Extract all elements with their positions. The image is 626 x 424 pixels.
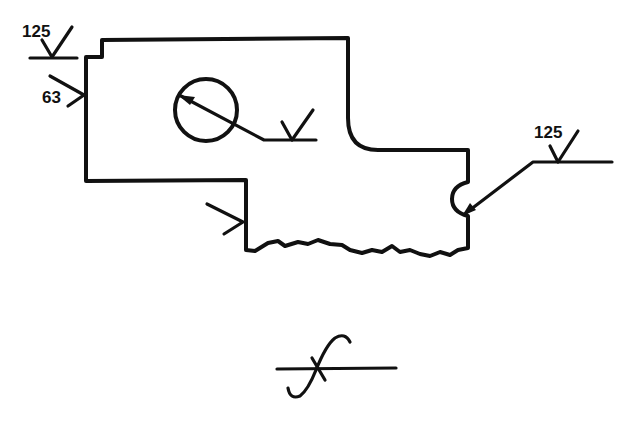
technical-drawing: 125 63 125 <box>0 0 626 424</box>
right-value: 125 <box>534 123 562 142</box>
lower-step-check-mark <box>207 204 243 234</box>
bore-check-mark <box>282 110 313 140</box>
part-outline <box>86 38 468 256</box>
bottom-horizontal-line <box>277 368 396 369</box>
right-arrowhead <box>462 203 476 216</box>
bottom-s-curve <box>288 336 350 397</box>
top-left-value: 125 <box>22 22 50 41</box>
right-leader <box>466 162 612 213</box>
left-side-value: 63 <box>42 88 61 107</box>
